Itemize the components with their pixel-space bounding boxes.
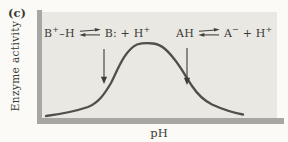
acid-equilibrium-annotation: AHA− + H+: [176, 27, 273, 40]
equilibrium-harpoons-icon: [78, 27, 102, 38]
curve-overlay: [0, 0, 288, 142]
equation-text: A: [224, 27, 232, 40]
figure-panel-c: (c) Enzyme activity pH B+–HB: + H+ AHA− …: [0, 0, 288, 142]
equation-text: –H: [59, 27, 75, 40]
superscript-charge: +: [144, 25, 151, 34]
equilibrium-harpoons-icon: [197, 27, 221, 38]
equation-text: + H: [239, 27, 266, 40]
base-equilibrium-annotation: B+–HB: + H+: [44, 27, 150, 40]
left-pka-arrowhead-icon: [101, 77, 107, 84]
x-axis-label: pH: [150, 126, 167, 140]
equation-text: B: + H: [105, 27, 144, 40]
y-axis-label: Enzyme activity: [9, 21, 21, 112]
superscript-charge: +: [266, 25, 273, 34]
panel-label: (c): [8, 6, 26, 20]
enzyme-activity-curve: [46, 43, 243, 116]
superscript-charge: −: [232, 25, 239, 34]
equation-text: AH: [176, 27, 194, 40]
